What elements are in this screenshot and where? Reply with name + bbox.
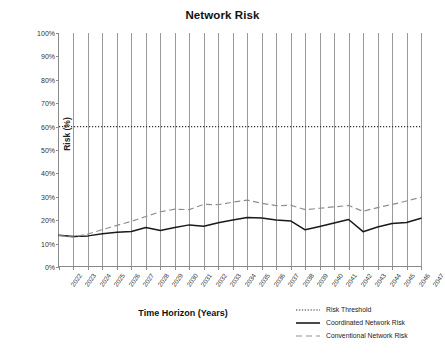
y-axis-tick-label: 10% [41, 240, 55, 247]
network-risk-chart: Network Risk Risk (%) 0%10%20%30%40%50%6… [0, 0, 445, 353]
y-axis-tick-label: 50% [41, 147, 55, 154]
x-axis-tick-label: 2025 [113, 272, 127, 288]
y-axis-tick-label: 30% [41, 193, 55, 200]
legend-label-conventional-network-risk: Conventional Network Risk [326, 332, 408, 339]
x-axis-tick-label: 2047 [431, 272, 445, 288]
legend-item-risk-threshold: Risk Threshold [295, 303, 443, 316]
y-axis-tick-label: 90% [41, 53, 55, 60]
y-axis-tick-label: 0% [45, 264, 55, 271]
y-axis-tick-label: 100% [37, 30, 55, 37]
series-line [59, 217, 421, 236]
x-axis-tick-label: 2022 [69, 272, 83, 288]
y-axis-tick-label: 60% [41, 123, 55, 130]
y-axis-tick-label: 40% [41, 170, 55, 177]
legend-item-coordinated-network-risk: Coordinated Network Risk [295, 316, 443, 329]
x-axis-tick-label: 2037 [286, 272, 300, 288]
x-axis-tick-label: 2031 [199, 272, 213, 288]
x-axis-tick-label: 2030 [185, 272, 199, 288]
x-axis-tick-label: 2028 [156, 272, 170, 288]
x-axis-tick-label: 2042 [359, 272, 373, 288]
x-axis-tick-label: 2023 [84, 272, 98, 288]
y-axis-tick-label: 80% [41, 76, 55, 83]
x-axis-tick-label: 2046 [417, 272, 431, 288]
chart-title: Network Risk [0, 9, 445, 21]
legend-label-risk-threshold: Risk Threshold [326, 306, 371, 313]
chart-legend: Risk Threshold Coordinated Network Risk … [295, 303, 443, 342]
x-axis-tick-label: 2040 [330, 272, 344, 288]
x-axis-tick-label: 2043 [373, 272, 387, 288]
x-axis-tick-label: 2024 [98, 272, 112, 288]
x-axis-tick-label: 2027 [142, 272, 156, 288]
x-axis-tick-label: 2036 [272, 272, 286, 288]
x-axis-tick-label: 2032 [214, 272, 228, 288]
x-axis-tick-label: 2033 [228, 272, 242, 288]
x-axis-tick-label: 2044 [388, 272, 402, 288]
series-lines [59, 33, 422, 267]
legend-item-conventional-network-risk: Conventional Network Risk [295, 329, 443, 342]
x-axis-tick-label: 2045 [402, 272, 416, 288]
dotted-line-icon [295, 306, 321, 314]
y-axis-tick-label: 70% [41, 100, 55, 107]
legend-label-coordinated-network-risk: Coordinated Network Risk [326, 319, 405, 326]
dashed-line-icon [295, 332, 321, 340]
x-axis-label: Time Horizon (Years) [58, 308, 308, 318]
x-axis-tick-label: 2035 [257, 272, 271, 288]
x-axis-tick-label: 2039 [315, 272, 329, 288]
x-axis-tick-label: 2026 [127, 272, 141, 288]
x-axis-tick-label: 2034 [243, 272, 257, 288]
x-axis-tick-label: 2038 [301, 272, 315, 288]
y-axis-tick-label: 20% [41, 217, 55, 224]
solid-line-icon [295, 319, 321, 327]
x-axis-tick-label: 2029 [171, 272, 185, 288]
x-axis-tick-label: 2041 [344, 272, 358, 288]
plot-area: Risk (%) 0%10%20%30%40%50%60%70%80%90%10… [58, 33, 421, 267]
